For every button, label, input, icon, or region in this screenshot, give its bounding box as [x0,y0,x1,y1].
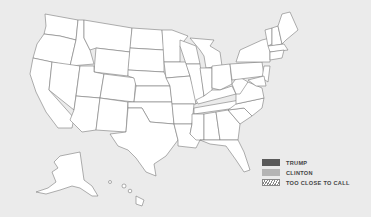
state-south-dakota[interactable] [128,48,164,72]
state-mississippi[interactable] [190,114,204,140]
state-north-dakota[interactable] [130,28,164,50]
state-new-mexico[interactable] [96,98,128,132]
legend-label: CLINTON [286,170,313,176]
legend-label: TOO CLOSE TO CALL [286,180,350,186]
state-alaska[interactable] [36,152,98,196]
legend-swatch-trump [262,159,280,166]
state-new-york[interactable] [236,38,270,62]
legend-label: TRUMP [286,160,307,166]
state-montana[interactable] [84,20,132,52]
legend-item-too-close: TOO CLOSE TO CALL [262,178,350,188]
legend-swatch-clinton [262,169,280,176]
state-kansas[interactable] [134,86,172,102]
contiguous-us [30,12,298,176]
legend-swatch-too-close-hatched [262,179,280,186]
state-connecticut-rhode-island[interactable] [270,50,284,60]
state-colorado[interactable] [100,74,136,102]
state-arkansas[interactable] [172,104,194,124]
state-hawaii[interactable] [109,181,145,207]
legend-item-trump: TRUMP [262,158,350,168]
state-florida[interactable] [200,140,250,172]
state-maine[interactable] [278,12,298,44]
legend: TRUMP CLINTON TOO CLOSE TO CALL [262,158,350,188]
state-wyoming[interactable] [94,48,130,76]
state-ohio[interactable] [212,64,232,90]
legend-item-clinton: CLINTON [262,168,350,178]
